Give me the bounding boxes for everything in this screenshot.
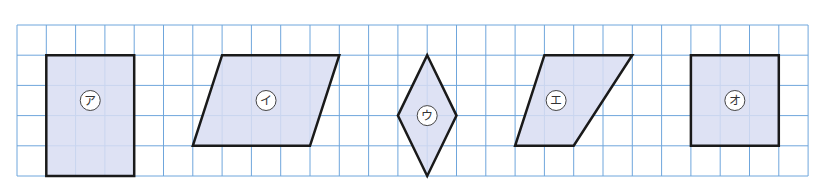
shape-outline bbox=[46, 55, 134, 176]
shape-label: イ bbox=[260, 94, 272, 108]
grid-diagram: アイウエオ bbox=[0, 0, 823, 189]
shape-rectangle: ア bbox=[46, 55, 134, 176]
shape-square: オ bbox=[691, 55, 779, 146]
shape-label: エ bbox=[550, 94, 562, 108]
shape-label: オ bbox=[729, 94, 741, 108]
shape-outline bbox=[515, 55, 632, 146]
shape-label: ウ bbox=[421, 109, 433, 123]
shape-rhombus: ウ bbox=[398, 55, 457, 176]
shape-parallelogram: イ bbox=[193, 55, 339, 146]
shape-label: ア bbox=[84, 94, 96, 108]
shape-parallelogram: エ bbox=[515, 55, 632, 146]
